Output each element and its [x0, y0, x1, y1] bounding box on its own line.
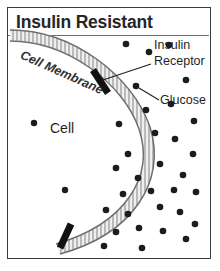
glucose-dot [183, 77, 190, 84]
glucose-dot [125, 151, 132, 158]
glucose-dot [101, 243, 108, 250]
glucose-dot [62, 187, 68, 193]
receptor-group [60, 70, 108, 248]
glucose-dot [133, 83, 140, 90]
label-insulin: Insulin [154, 38, 190, 52]
label-glucose: Glucose [160, 93, 206, 107]
glucose-dot [191, 118, 198, 125]
glucose-dot [180, 172, 187, 179]
glucose-dot [139, 245, 146, 252]
glucose-dot [171, 187, 178, 194]
glucose-dot [157, 161, 164, 168]
glucose-dot [148, 188, 155, 195]
glucose-dot [120, 191, 127, 198]
glucose-dot [193, 189, 200, 196]
glucose-dot [146, 49, 153, 56]
glucose-dot [123, 41, 130, 48]
glucose-dot [190, 151, 197, 158]
glucose-dot [103, 207, 110, 214]
glucose-dot [177, 209, 184, 216]
leader-line-glucose [139, 88, 159, 100]
label-cell: Cell [50, 120, 74, 136]
glucose-dot [31, 120, 37, 126]
glucose-dot [152, 130, 159, 137]
glucose-dot [125, 211, 132, 218]
glucose-dot [143, 107, 150, 114]
glucose-dot [160, 228, 167, 235]
glucose-dot [192, 221, 199, 228]
glucose-dot [113, 165, 120, 172]
glucose-dot [172, 136, 179, 143]
diagram-figure: Insulin Resistant [0, 0, 220, 271]
glucose-dot [113, 229, 120, 236]
glucose-dot [136, 225, 143, 232]
glucose-dot [157, 204, 164, 211]
label-receptor: Receptor [154, 54, 205, 68]
diagram-frame: Insulin Resistant [7, 7, 211, 259]
glucose-dot [183, 236, 190, 243]
glucose-dot [135, 175, 142, 182]
glucose-dot [116, 121, 123, 128]
